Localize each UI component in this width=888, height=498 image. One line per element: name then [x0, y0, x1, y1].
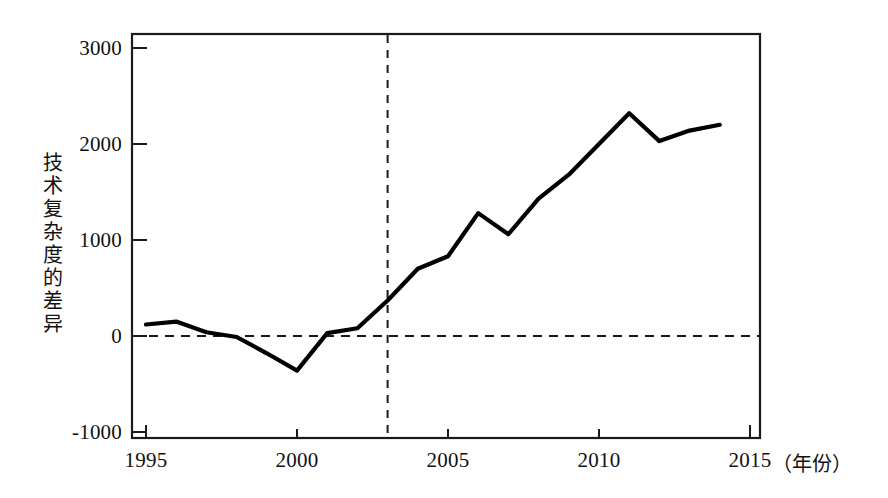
data-series-line — [146, 113, 720, 370]
y-axis-title-char: 技 — [38, 152, 68, 175]
y-axis-title-char: 复 — [38, 198, 68, 221]
line-chart-canvas — [0, 0, 888, 498]
y-axis-title-char: 差 — [38, 290, 68, 313]
y-tick-label-minus-1000: -1000 — [32, 420, 122, 445]
y-axis-title-char: 的 — [38, 267, 68, 290]
x-tick-label-2015: 2015 — [729, 448, 772, 473]
x-tick-label-2000: 2000 — [276, 448, 319, 473]
x-tick-label-1995: 1995 — [125, 448, 168, 473]
x-tick-label-2010: 2010 — [578, 448, 621, 473]
y-tick-label-3000: 3000 — [40, 36, 122, 61]
y-axis-title-char: 异 — [38, 313, 68, 336]
y-axis-title-char: 杂 — [38, 221, 68, 244]
y-axis-title-char: 度 — [38, 244, 68, 267]
x-tick-label-2005: 2005 — [427, 448, 470, 473]
x-tick-marks — [146, 425, 750, 438]
y-tick-marks — [132, 48, 147, 432]
chart-figure: 3000 2000 1000 0 -1000 1995 2000 2005 20… — [0, 0, 888, 498]
x-axis-unit-label: （年份） — [772, 448, 852, 477]
plot-frame — [132, 34, 760, 438]
y-axis-title-char: 术 — [38, 175, 68, 198]
y-axis-title: 技 术 复 杂 度 的 差 异 — [38, 152, 68, 336]
